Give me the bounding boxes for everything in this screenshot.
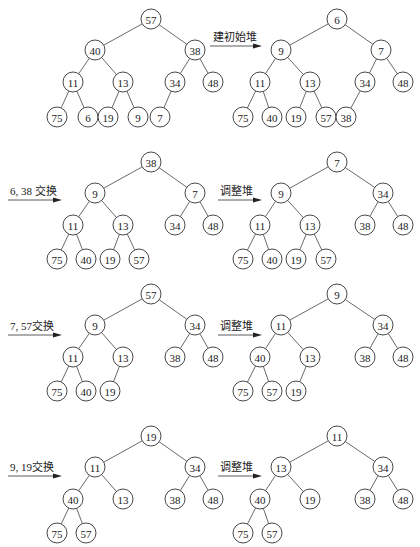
tree-edge [77,234,83,249]
node-value: 19 [105,254,117,266]
diagram-svg: 5740381113344875619976971113344875401957… [0,0,420,547]
tree-node: 19 [98,107,118,127]
node-value: 13 [118,494,130,506]
node-value: 19 [103,112,115,124]
tree-node: 34 [185,457,205,477]
tree-edge [247,508,255,524]
tree-node: 9 [85,315,105,335]
tree-panel-initial-tree: 574038111334487561997 [47,9,223,127]
tree-node: 48 [203,215,223,235]
tree-node: 38 [336,107,356,127]
tree-node: 11 [327,426,347,446]
tree-node: 34 [373,183,393,203]
tree-edge [345,442,374,462]
tree-edge [104,299,143,320]
tree-node: 48 [203,489,223,509]
node-value: 11 [68,352,79,364]
node-value: 34 [378,320,390,332]
node-value: 13 [118,220,130,232]
tree-node: 13 [113,215,133,235]
tree-edge [200,59,208,74]
tree-edge [247,366,255,382]
tree-node: 9 [327,284,347,304]
tree-edge [102,333,117,350]
tree-node: 34 [165,72,185,92]
node-value: 7 [378,45,384,57]
node-value: 34 [170,220,182,232]
tree-edge [159,442,187,461]
tree-node: 9 [271,40,291,60]
tree-edge [180,475,189,490]
tree-node: 38 [141,152,161,172]
tree-edge [265,475,275,490]
step-arrow: 7, 57交换 [8,319,62,338]
tree-edge [345,168,374,188]
node-value: 7 [157,112,163,124]
node-value: 38 [190,45,202,57]
tree-edge [263,91,269,107]
tree-node: 9 [85,183,105,203]
node-value: 38 [360,494,372,506]
node-value: 11 [90,462,101,474]
node-value: 6 [85,112,91,124]
tree-edge [300,234,306,250]
tree-node: 75 [47,107,67,127]
node-value: 40 [81,386,93,398]
tree-node: 57 [262,381,282,401]
tree-edge [388,201,397,216]
tree-panel-swap-6-38: 389711133448754019576, 38 交换 [8,152,223,269]
tree-edge [263,234,268,249]
node-value: 48 [208,77,220,89]
node-value: 48 [208,220,220,232]
tree-node: 7 [150,107,170,127]
tree-edge [127,91,134,108]
node-value: 38 [360,352,372,364]
tree-node: 40 [76,381,96,401]
node-value: 38 [360,220,372,232]
tree-edge [104,441,143,462]
arrow-head-icon [253,474,262,479]
tree-edge [61,508,68,524]
arrow-head-icon [253,198,262,203]
arrow-head-icon [53,333,62,338]
node-value: 34 [378,462,390,474]
node-value: 34 [378,188,390,200]
tree-node: 38 [355,489,375,509]
node-value: 48 [398,77,410,89]
tree-node: 48 [393,215,413,235]
tree-edge [388,333,397,348]
tree-edge [164,91,171,108]
tree-node: 11 [85,457,105,477]
tree-edge [300,366,306,382]
tree-edge [247,234,255,250]
tree-edge [370,334,378,349]
tree-edge [159,168,187,187]
tree-panel-swap-9-19: 1911344013384875579, 19交换 [8,426,223,543]
node-value: 57 [146,14,158,26]
tree-edge [77,508,83,523]
node-value: 11 [68,220,79,232]
node-value: 9 [334,289,340,301]
node-value: 48 [398,494,410,506]
tree-node: 13 [300,347,320,367]
node-value: 75 [52,112,64,124]
tree-node: 48 [203,72,223,92]
node-value: 6 [334,14,340,26]
step-label: 调整堆 [220,319,253,332]
step-arrow: 6, 38 交换 [8,184,62,203]
node-value: 13 [305,352,317,364]
node-value: 38 [146,157,158,169]
node-value: 13 [118,352,130,364]
tree-panel-adjust-1: 79341113384875401957调整堆 [218,152,413,269]
tree-node: 57 [316,107,336,127]
tree-edge [247,91,255,108]
node-value: 48 [208,352,220,364]
tree-node: 48 [393,72,413,92]
node-value: 57 [81,528,93,540]
tree-edge [288,57,304,74]
node-value: 40 [267,112,279,124]
node-value: 75 [52,386,64,398]
tree-node: 75 [47,381,67,401]
node-value: 40 [255,494,267,506]
tree-node: 9 [128,107,148,127]
